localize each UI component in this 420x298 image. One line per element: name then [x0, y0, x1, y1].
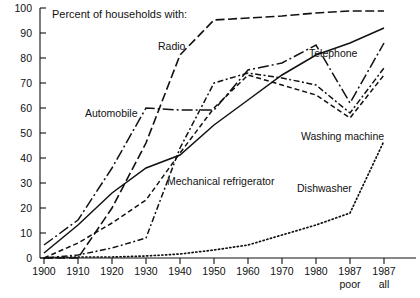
series-label-telephone: Telephone [309, 47, 357, 59]
y-axis-ticks [40, 8, 46, 258]
series-line-automobile [44, 43, 384, 245]
chart-container: 100 90 80 70 60 50 40 30 20 10 0 1900 19… [0, 0, 420, 298]
y-tick-label: 50 [6, 128, 32, 138]
series-line-mechanical-refrigerator [44, 68, 384, 258]
y-tick-label: 30 [6, 178, 32, 188]
y-tick-label: 40 [6, 153, 32, 163]
x-axis-ticks [44, 258, 384, 264]
series-line-dishwasher [44, 141, 384, 258]
series-label-washing-machine: Washing machine [301, 130, 384, 142]
y-tick-label: 60 [6, 103, 32, 113]
y-tick-label: 80 [6, 53, 32, 63]
x-tick-sublabel: all [361, 279, 407, 290]
y-tick-label: 10 [6, 228, 32, 238]
y-tick-label: 0 [6, 253, 32, 263]
chart-caption: Percent of households with: [52, 8, 187, 20]
y-tick-label: 70 [6, 78, 32, 88]
y-tick-label: 90 [6, 28, 32, 38]
y-tick-label: 100 [6, 3, 32, 13]
x-tick-label: 1987 [361, 266, 407, 277]
chart-plot-area [0, 0, 420, 298]
series-label-mechanical-refrigerator: Mechanical refrigerator [167, 175, 274, 187]
series-label-radio: Radio [158, 40, 185, 52]
series-label-dishwasher: Dishwasher [297, 182, 352, 194]
series-line-washing-machine [44, 75, 384, 258]
series-label-automobile: Automobile [85, 107, 138, 119]
y-tick-label: 20 [6, 203, 32, 213]
